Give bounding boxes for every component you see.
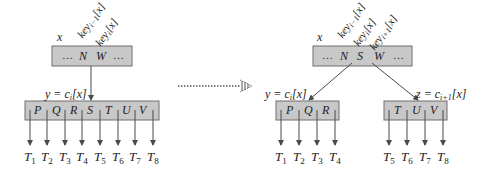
left-subtree-1: T1 — [24, 150, 36, 166]
right-subtree-1: T1 — [275, 150, 287, 166]
right-parent-right-edge — [372, 63, 418, 100]
btree-split-diagram: x keyi−1[x] keyi[x] … N W … y = ci[x] P … — [0, 0, 489, 172]
left-subtree-2: T2 — [41, 150, 53, 166]
left-subtree-5: T5 — [94, 150, 106, 166]
right-right-child-key-1: U — [412, 104, 421, 116]
right-parent-key-1: N — [340, 50, 348, 62]
right-left-child-key-1: Q — [304, 104, 313, 116]
right-parent-left-edge — [309, 63, 352, 100]
right-parent-name: x — [317, 31, 322, 43]
right-subtree-2: T2 — [293, 150, 305, 166]
left-subtree-7: T7 — [129, 150, 141, 166]
left-child-key-2: R — [70, 104, 77, 116]
dotted-arrow-icon — [178, 80, 252, 92]
right-subtree-3: T3 — [311, 150, 323, 166]
right-subtree-6: T6 — [401, 150, 413, 166]
left-subtree-6: T6 — [112, 150, 124, 166]
right-parent-key-2: S — [357, 50, 363, 62]
right-parent-key-4: … — [393, 50, 404, 61]
left-child-label: y = ci[x] — [45, 88, 87, 102]
left-child-key-1: Q — [52, 104, 61, 116]
right-parent-key-0: … — [322, 50, 333, 61]
left-child-key-4: T — [105, 104, 112, 116]
left-subtree-3: T3 — [59, 150, 71, 166]
left-child-key-6: V — [139, 104, 146, 116]
right-subtree-7: T7 — [419, 150, 431, 166]
left-parent-key-2: W — [96, 50, 106, 62]
left-parent-name: x — [57, 31, 62, 43]
left-child-key-3: S — [87, 104, 93, 116]
right-left-child-key-2: R — [322, 104, 329, 116]
right-right-child-key-0: T — [394, 104, 401, 116]
left-child-key-5: U — [122, 104, 131, 116]
left-parent-key-3: … — [113, 50, 124, 61]
right-right-child-label: z = ci+1[x] — [416, 88, 466, 102]
left-parent-key-0: … — [62, 50, 73, 61]
right-subtree-5: T5 — [383, 150, 395, 166]
right-subtree-8: T8 — [437, 150, 449, 166]
right-left-child-label: y = ci[x] — [265, 88, 307, 102]
right-subtree-4: T4 — [329, 150, 341, 166]
diagram-lines — [0, 0, 489, 172]
right-right-child-key-2: V — [430, 104, 437, 116]
left-subtree-4: T4 — [76, 150, 88, 166]
left-child-key-0: P — [34, 104, 41, 116]
left-parent-key-1: N — [79, 50, 87, 62]
right-left-child-key-0: P — [286, 104, 293, 116]
right-parent-key-3: W — [374, 50, 384, 62]
left-subtree-8: T8 — [147, 150, 159, 166]
